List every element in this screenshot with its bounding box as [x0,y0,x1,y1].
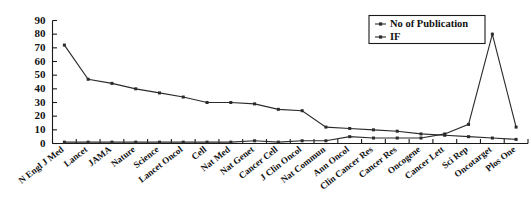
data-point-marker [158,91,161,94]
data-point-marker [515,126,518,129]
data-point-marker [443,134,446,137]
data-point-marker [206,141,209,144]
data-point-marker [110,82,113,85]
data-point-marker [134,141,137,144]
legend-marker-swatch [379,35,382,38]
data-point-marker [515,138,518,141]
data-point-marker [467,135,470,138]
y-tick-label: 90 [35,14,47,26]
x-tick-label: JAMA [86,144,113,168]
data-point-marker [87,141,90,144]
data-point-marker [491,137,494,140]
data-point-marker [372,137,375,140]
data-point-marker [396,137,399,140]
y-tick-label: 60 [35,55,47,67]
y-tick-label: 20 [35,109,47,121]
data-point-marker [229,141,232,144]
data-point-marker [182,141,185,144]
data-point-marker [253,102,256,105]
data-point-marker [301,139,304,142]
data-point-marker [277,108,280,111]
data-point-marker [182,96,185,99]
x-tick-label: Nature [109,144,137,169]
data-point-marker [253,139,256,142]
series-line-2 [64,45,516,139]
data-point-marker [372,128,375,131]
x-tick-label: N Engl J Med [17,144,66,185]
y-tick-label: 50 [35,68,47,80]
data-point-marker [158,141,161,144]
data-point-marker [324,139,327,142]
data-point-marker [324,126,327,129]
chart-canvas: 9080706050403020100 N Engl J MedLancetJA… [0,0,531,214]
data-point-marker [229,101,232,104]
x-tick-label: Lancet [62,144,90,169]
x-axis-tick-labels: N Engl J MedLancetJAMANatureScienceLance… [17,144,518,192]
y-tick-label: 80 [35,27,47,39]
line-chart: 9080706050403020100 N Engl J MedLancetJA… [0,0,531,214]
data-point-marker [301,109,304,112]
y-axis-tick-labels: 9080706050403020100 [35,14,47,149]
y-tick-label: 10 [35,123,47,135]
series-lines [64,34,516,142]
data-point-marker [420,132,423,135]
data-point-marker [110,141,113,144]
data-point-marker [348,127,351,130]
data-point-marker [467,123,470,126]
data-point-marker [63,44,66,47]
data-point-marker [277,141,280,144]
y-tick-label: 0 [40,137,46,149]
chart-legend[interactable]: No of PublicationIF [369,16,485,44]
data-point-marker [134,87,137,90]
data-point-marker [348,135,351,138]
y-tick-label: 30 [35,96,47,108]
y-tick-label: 70 [35,41,47,53]
data-point-marker [87,78,90,81]
data-point-marker [206,101,209,104]
legend-item-label: IF [390,31,401,42]
y-tick-label: 40 [35,82,47,94]
data-point-marker [396,130,399,133]
data-point-marker [420,137,423,140]
y-axis-tick-marks [53,21,58,144]
legend-item-label: No of Publication [390,18,468,29]
data-point-marker [63,141,66,144]
legend-marker-swatch [379,22,382,25]
data-point-marker [491,33,494,36]
